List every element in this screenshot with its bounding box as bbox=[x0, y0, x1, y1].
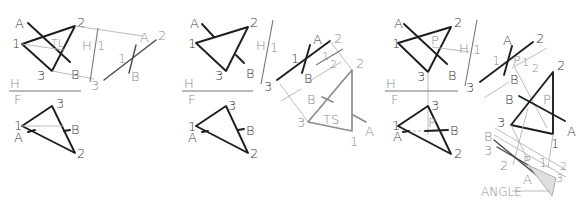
p2-front-label-2: 2 bbox=[250, 146, 258, 161]
p1-label-1: 1 bbox=[12, 36, 20, 51]
p3-fold-F-label: F bbox=[391, 92, 398, 107]
p3-label-P: P bbox=[431, 33, 439, 48]
p3-aux1-label-2: 2 bbox=[536, 31, 544, 46]
p2-line-A-stub bbox=[353, 115, 366, 122]
p1-aux1-label-2: 2 bbox=[158, 28, 166, 43]
p1-line-B-stub bbox=[64, 130, 70, 131]
p1-fold-H1 bbox=[90, 28, 98, 82]
p3-label-A: A bbox=[394, 16, 403, 31]
p3-fold-1: 1 bbox=[473, 42, 481, 57]
p3-front-line-PB bbox=[425, 130, 448, 131]
p2-label-3: 3 bbox=[215, 68, 223, 83]
panel-step-2: A 2 1 3 B H 1 A 2 1 B 3 1 2 2 bbox=[182, 15, 374, 161]
p2-label-2: 2 bbox=[250, 15, 258, 30]
p1-frontal-view: 3 1 A B 2 bbox=[14, 96, 85, 161]
p1-aux1-label-B: B bbox=[131, 69, 140, 84]
p2-aux2-label-B: B bbox=[307, 92, 316, 107]
p2-label-A: A bbox=[190, 16, 199, 31]
p3-fold-23-label-3: 3 bbox=[556, 172, 563, 185]
p3-label-1: 1 bbox=[392, 36, 400, 51]
p2-aux1-label-3: 3 bbox=[264, 79, 272, 94]
p3-aux3-label-1: 1 bbox=[539, 155, 547, 170]
p2-aux2-label-1: 1 bbox=[350, 134, 358, 149]
p3-front-label-P: P bbox=[428, 115, 436, 130]
p2-line-A-stub bbox=[202, 24, 214, 37]
p2-line-B-stub-front bbox=[238, 129, 244, 130]
p3-fold-H: H bbox=[459, 41, 469, 56]
p3-label-3: 3 bbox=[417, 69, 425, 84]
p3-plane-123-top bbox=[398, 27, 451, 72]
p1-fold-H: H bbox=[82, 38, 92, 53]
p2-aux1-label-2: 2 bbox=[334, 31, 342, 46]
p2-line-AB-aux1 bbox=[302, 45, 310, 73]
p1-label-3: 3 bbox=[37, 68, 45, 83]
p1-aux1-label-1: 1 bbox=[118, 51, 126, 66]
p3-aux1-label-1: 1 bbox=[492, 53, 500, 68]
p1-label-A: A bbox=[15, 16, 24, 31]
p3-aux3-label-B: B bbox=[484, 129, 493, 144]
p3-aux3-label-3: 3 bbox=[484, 143, 492, 158]
p2-line-B-stub bbox=[236, 55, 244, 63]
p3-aux2-label-B: B bbox=[505, 92, 514, 107]
p3-front-line-A-stub bbox=[403, 131, 409, 132]
p1-fold-H-label: H bbox=[10, 76, 20, 91]
p3-aux3-label-A: A bbox=[523, 172, 532, 187]
descriptive-geometry-figure: A 2 1 TL 3 B H 1 A 2 1 B 3 H F bbox=[0, 0, 586, 204]
p3-aux1-label-A: A bbox=[503, 33, 512, 48]
p2-aux2-label-2: 2 bbox=[356, 56, 364, 71]
p3-front-label-3: 3 bbox=[431, 98, 439, 113]
p2-label-B: B bbox=[246, 66, 255, 81]
p2-front-label-A: A bbox=[188, 130, 197, 145]
p3-fold-12-label-2: 2 bbox=[532, 62, 539, 75]
panel-step-3: A 2 1 P 3 B H 1 A 2 1 P B 3 1 2 bbox=[385, 15, 576, 199]
p1-front-label-3: 3 bbox=[56, 96, 64, 111]
p3-front-label-A: A bbox=[393, 129, 402, 144]
p2-fold-H-label: H bbox=[184, 76, 194, 91]
p1-label-TL: TL bbox=[51, 37, 64, 50]
p2-horizontal-view: A 2 1 3 B bbox=[188, 15, 258, 83]
p1-plane-edge bbox=[104, 40, 156, 80]
p3-aux2-label-A: A bbox=[567, 124, 576, 139]
p2-aux1-label-1: 1 bbox=[291, 51, 299, 66]
p3-frontal-view: 3 1 A P B 2 bbox=[392, 98, 462, 161]
p1-plane-123-front bbox=[22, 106, 75, 153]
p1-front-label-2: 2 bbox=[77, 146, 85, 161]
p2-aux2-label-3: 3 bbox=[297, 115, 305, 130]
p1-fold-F-label: F bbox=[14, 92, 21, 107]
p2-front-label-3: 3 bbox=[228, 98, 236, 113]
p2-fold-1: 1 bbox=[270, 40, 278, 55]
p3-aux3-label-2: 2 bbox=[500, 158, 508, 173]
p3-label-2: 2 bbox=[454, 15, 462, 30]
p3-front-label-2: 2 bbox=[454, 146, 462, 161]
p3-fold-H-label: H bbox=[386, 76, 396, 91]
p2-front-label-B: B bbox=[246, 123, 255, 138]
p2-plane-123-top bbox=[196, 27, 248, 71]
p3-front-label-B: B bbox=[450, 123, 459, 138]
p2-fold-2-label: 2 bbox=[330, 58, 337, 71]
p3-label-B: B bbox=[448, 68, 457, 83]
p2-label-1: 1 bbox=[188, 36, 196, 51]
p3-line-AB-aux1 bbox=[504, 46, 512, 75]
p1-horizontal-view: A 2 1 TL 3 B bbox=[12, 15, 85, 83]
p2-frontal-view: 3 1 A B 2 bbox=[188, 98, 258, 161]
p2-fold-F-label: F bbox=[188, 92, 195, 107]
p1-plane-123-top bbox=[22, 26, 75, 71]
p3-aux3-label-P: P bbox=[523, 153, 531, 168]
p1-fold-1: 1 bbox=[97, 38, 105, 53]
panel-step-1: A 2 1 TL 3 B H 1 A 2 1 B 3 H F bbox=[9, 15, 166, 161]
p1-projector-2 bbox=[75, 26, 143, 36]
p1-aux1-label-3: 3 bbox=[91, 78, 99, 93]
p3-aux1-label-B: B bbox=[510, 72, 519, 87]
p2-fold-1-label: 1 bbox=[322, 50, 329, 63]
p2-aux1-label-A: A bbox=[313, 32, 322, 47]
p3-aux1-label-3: 3 bbox=[466, 80, 474, 95]
p2-line-A-stub-front bbox=[202, 131, 208, 132]
p2-aux1-label-B: B bbox=[304, 71, 313, 86]
p2-fold-H: H bbox=[256, 38, 266, 53]
p3-aux2-label-P: P bbox=[543, 92, 551, 107]
p3-angle-label: ANGLE bbox=[481, 185, 522, 199]
p1-aux1-label-A: A bbox=[140, 30, 149, 45]
p3-aux2-label-2: 2 bbox=[557, 58, 565, 73]
p3-auxiliary-3-view: B 3 2 P 1 A 2 3 ANGLE bbox=[481, 108, 567, 199]
p3-fold-12-label-1: 1 bbox=[522, 56, 529, 69]
